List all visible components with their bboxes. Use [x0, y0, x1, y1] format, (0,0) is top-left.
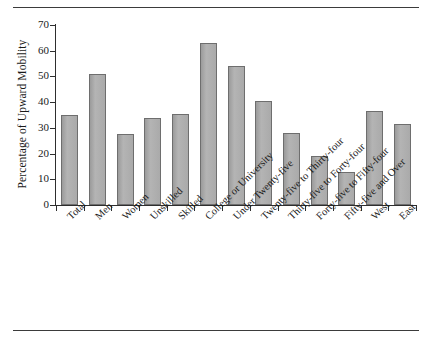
y-tick-10	[50, 179, 55, 180]
y-axis-tick-labels: 010203040506070	[5, 0, 49, 339]
y-tick-label-0: 0	[9, 199, 49, 210]
y-tick-label-30: 30	[9, 122, 49, 133]
bar	[144, 118, 161, 205]
bar	[61, 115, 78, 205]
y-tick-label-60: 60	[9, 45, 49, 56]
bar	[117, 134, 134, 205]
y-tick-50	[50, 76, 55, 77]
y-tick-label-20: 20	[9, 148, 49, 159]
y-tick-0	[50, 205, 55, 206]
y-tick-60	[50, 51, 55, 52]
x-tick-0	[56, 206, 57, 211]
y-tick-label-50: 50	[9, 70, 49, 81]
y-tick-30	[50, 128, 55, 129]
y-tick-label-70: 70	[9, 19, 49, 30]
figure-container: Percentage of Upward Mobility 0102030405…	[0, 0, 433, 339]
figure-bottom-rule	[13, 330, 419, 331]
y-tick-70	[50, 25, 55, 26]
y-tick-40	[50, 102, 55, 103]
figure-top-rule	[13, 7, 419, 8]
y-tick-label-10: 10	[9, 173, 49, 184]
y-tick-label-40: 40	[9, 96, 49, 107]
y-tick-20	[50, 154, 55, 155]
bar	[200, 43, 217, 205]
bar	[89, 74, 106, 205]
